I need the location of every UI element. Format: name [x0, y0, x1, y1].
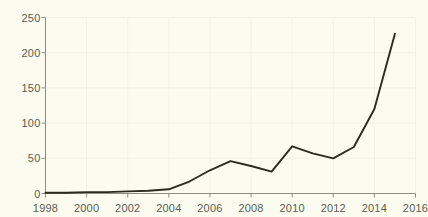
y-axis-tick-label: 50 — [4, 152, 41, 164]
x-axis-tick-label: 2004 — [156, 202, 181, 214]
x-axis-tick-label: 2010 — [280, 202, 305, 214]
x-axis-tick-label: 1998 — [33, 202, 58, 214]
x-axis-tick-label: 2012 — [321, 202, 346, 214]
x-axis-tick-label: 2008 — [238, 202, 263, 214]
y-axis-tick-label: 200 — [4, 47, 41, 59]
tick-marks — [42, 18, 416, 198]
chart-plot-area — [0, 0, 428, 217]
y-axis-tick-label: 250 — [4, 12, 41, 24]
data-line-1 — [46, 34, 395, 193]
y-axis-tick-label: 100 — [4, 117, 41, 129]
x-axis-tick-label: 2000 — [74, 202, 99, 214]
line-chart: 050100150200250 199820002002200420062008… — [0, 0, 428, 217]
x-axis-tick-label: 2014 — [362, 202, 387, 214]
data-series-lines — [46, 34, 395, 193]
axis-lines — [46, 18, 416, 194]
gridlines — [46, 18, 416, 194]
y-axis-tick-label: 150 — [4, 82, 41, 94]
x-axis-tick-label: 2006 — [197, 202, 222, 214]
x-axis-tick-label: 2016 — [403, 202, 428, 214]
y-axis-tick-label: 0 — [4, 188, 41, 200]
x-axis-tick-label: 2002 — [115, 202, 140, 214]
